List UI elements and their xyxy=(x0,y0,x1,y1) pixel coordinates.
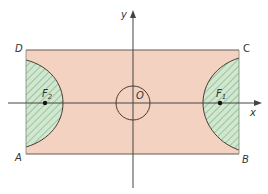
x-axis-arrow-icon xyxy=(254,100,262,106)
focus-f1-point xyxy=(218,101,222,105)
x-axis-label: x xyxy=(249,107,256,118)
y-axis-label: y xyxy=(120,9,128,20)
focus-f1-subscript: 1 xyxy=(222,93,226,101)
vertex-b-label: B xyxy=(242,154,249,165)
focus-f2-point xyxy=(43,101,47,105)
vertex-d-label: D xyxy=(15,43,23,54)
y-axis-arrow-icon xyxy=(130,10,136,18)
hyperbola-rectangle-diagram: y x O D C A B F2 F1 xyxy=(0,0,268,194)
focus-f2-subscript: 2 xyxy=(48,93,53,101)
origin-label: O xyxy=(136,90,144,101)
vertex-a-label: A xyxy=(14,152,22,163)
vertex-c-label: C xyxy=(243,43,250,54)
